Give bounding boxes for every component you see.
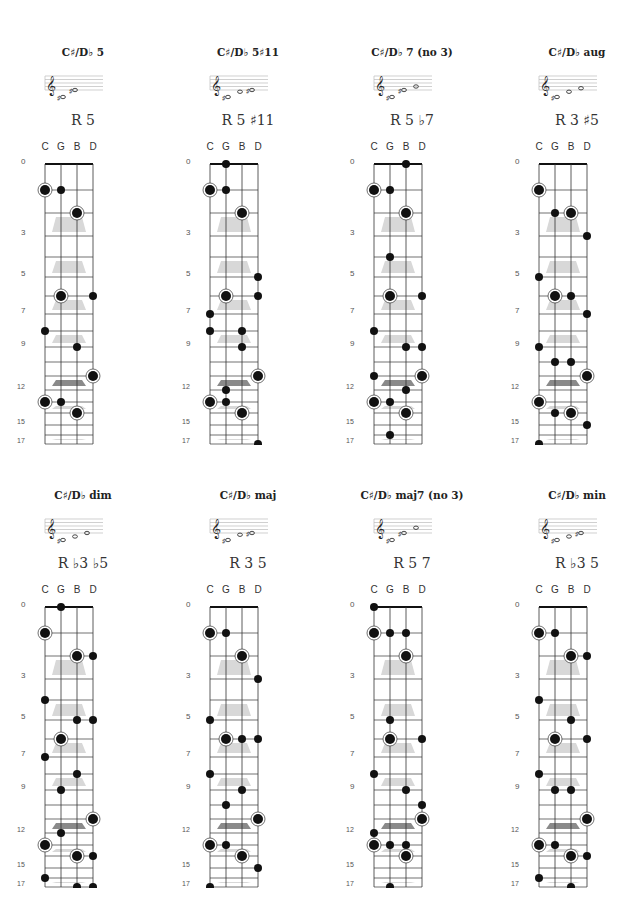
chord-diagram: C♯/D♭ dim𝄞♯R ♭3 ♭5CGBD03579121517: [3, 443, 163, 888]
root-note-dot: [401, 651, 411, 661]
note-dot: [254, 273, 262, 281]
fret-number: 7: [350, 749, 355, 758]
note-dot: [567, 883, 575, 888]
fret-inlay-marker: [217, 261, 251, 273]
fret-inlay-marker: [381, 217, 415, 232]
fret-number: 9: [21, 339, 26, 348]
fret-number: 7: [350, 306, 355, 315]
root-note-dot: [369, 397, 379, 407]
fret-number: 7: [515, 306, 520, 315]
fret-inlay-marker: [52, 217, 86, 232]
fret-inlay-marker: [546, 335, 580, 343]
note-dot: [583, 652, 591, 660]
note-dot: [73, 770, 81, 778]
fret-inlay-marker: [52, 261, 86, 273]
root-note-dot: [40, 840, 50, 850]
fretboard: 03579121517: [497, 0, 630, 445]
fret-number: 5: [515, 712, 520, 721]
root-note-dot: [534, 840, 544, 850]
note-dot: [57, 186, 65, 194]
chord-diagram: C♯/D♭ aug𝄞♯R 3 ♯5CGBD03579121517: [497, 0, 630, 445]
note-dot: [206, 716, 214, 724]
fret-inlay-marker: [546, 380, 580, 386]
chord-diagram: C♯/D♭ 7 (no 3)𝄞♯♯R 5 ♭7CGBD03579121517: [332, 0, 492, 445]
note-dot: [551, 786, 559, 794]
fret-number: 9: [186, 339, 191, 348]
root-note-dot: [221, 734, 231, 744]
fret-number: 5: [515, 269, 520, 278]
fret-inlay-marker: [217, 882, 251, 883]
fret-number: 0: [21, 600, 26, 609]
note-dot: [535, 770, 543, 778]
fret-inlay-marker: [52, 439, 86, 440]
fretboard: 03579121517: [497, 443, 630, 888]
note-dot: [551, 409, 559, 417]
note-dot: [89, 292, 97, 300]
root-note-dot: [237, 851, 247, 861]
fret-number: 12: [182, 826, 190, 833]
fret-number: 15: [17, 418, 25, 425]
note-dot: [370, 829, 378, 837]
root-note-dot: [534, 628, 544, 638]
fret-number: 12: [346, 383, 354, 390]
note-dot: [41, 874, 49, 882]
fret-number: 9: [21, 782, 26, 791]
fret-inlay-marker: [381, 439, 415, 440]
root-note-dot: [550, 291, 560, 301]
note-dot: [386, 431, 394, 439]
note-dot: [583, 735, 591, 743]
note-dot: [402, 786, 410, 794]
note-dot: [238, 327, 246, 335]
root-note-dot: [88, 371, 98, 381]
root-note-dot: [205, 628, 215, 638]
note-dot: [222, 629, 230, 637]
note-dot: [222, 386, 230, 394]
root-note-dot: [237, 408, 247, 418]
fret-inlay-marker: [52, 704, 86, 716]
note-dot: [402, 386, 410, 394]
fret-number: 0: [350, 157, 355, 166]
note-dot: [583, 232, 591, 240]
root-note-dot: [205, 840, 215, 850]
fret-number: 12: [346, 826, 354, 833]
root-note-dot: [205, 185, 215, 195]
fret-number: 9: [515, 782, 520, 791]
fret-number: 0: [515, 600, 520, 609]
root-note-dot: [566, 851, 576, 861]
note-dot: [254, 675, 262, 683]
root-note-dot: [566, 651, 576, 661]
fretboard: 03579121517: [332, 443, 492, 888]
note-dot: [238, 343, 246, 351]
fret-inlay-marker: [52, 335, 86, 343]
note-dot: [254, 735, 262, 743]
note-dot: [418, 735, 426, 743]
note-dot: [551, 358, 559, 366]
fret-number: 5: [186, 712, 191, 721]
note-dot: [402, 343, 410, 351]
note-dot: [386, 629, 394, 637]
fret-number: 7: [21, 749, 26, 758]
fretboard: 03579121517: [168, 443, 328, 888]
note-dot: [57, 603, 65, 611]
root-note-dot: [72, 651, 82, 661]
fretboard: 03579121517: [3, 0, 163, 445]
fret-number: 15: [17, 861, 25, 868]
root-note-dot: [40, 628, 50, 638]
fret-inlay-marker: [217, 335, 251, 343]
note-dot: [89, 852, 97, 860]
fret-number: 3: [350, 671, 355, 680]
note-dot: [238, 735, 246, 743]
note-dot: [206, 770, 214, 778]
note-dot: [583, 852, 591, 860]
note-dot: [222, 841, 230, 849]
note-dot: [73, 716, 81, 724]
fret-number: 15: [346, 418, 354, 425]
note-dot: [535, 273, 543, 281]
note-dot: [89, 716, 97, 724]
note-dot: [418, 292, 426, 300]
note-dot: [41, 327, 49, 335]
fret-inlay-marker: [546, 261, 580, 273]
root-note-dot: [417, 371, 427, 381]
fret-inlay-marker: [381, 660, 415, 675]
fret-number: 0: [350, 600, 355, 609]
